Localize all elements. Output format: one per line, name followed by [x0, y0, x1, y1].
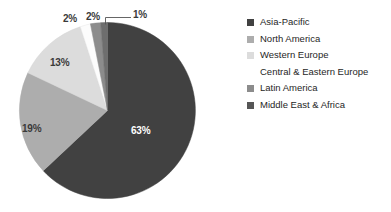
slice-label-north-america: 19%	[22, 124, 41, 134]
legend-swatch-icon	[247, 102, 254, 109]
legend-swatch-icon	[247, 36, 254, 43]
slice-label-middle-east-africa: 1%	[133, 10, 147, 20]
legend-swatch-icon	[247, 85, 254, 92]
slice-label-western-europe: 13%	[50, 58, 69, 68]
legend-label: Asia-Pacific	[260, 14, 310, 31]
slice-label-asia-pacific: 63%	[131, 126, 150, 136]
slice-label-central-eastern-europe: 2%	[63, 14, 77, 24]
legend-label: Middle East & Africa	[260, 97, 345, 114]
legend-item-asia-pacific[interactable]: Asia-Pacific	[247, 14, 391, 31]
legend-label: Central & Eastern Europe	[260, 64, 368, 81]
legend-swatch-icon	[247, 52, 254, 59]
legend-item-north-america[interactable]: North America	[247, 31, 391, 48]
legend-label: Western Europe	[260, 47, 328, 64]
legend-label: North America	[260, 31, 320, 48]
legend-item-middle-east-africa[interactable]: Middle East & Africa	[247, 97, 391, 114]
pie-chart-figure: 63% 19% 13% 2% 2% 1% Asia-Pacific North …	[0, 0, 391, 212]
chart-legend: Asia-Pacific North America Western Europ…	[247, 14, 391, 113]
legend-item-western-europe[interactable]: Western Europe	[247, 47, 391, 64]
pie-chart-svg	[0, 0, 240, 212]
legend-swatch-icon	[247, 19, 254, 26]
slice-label-latin-america: 2%	[86, 12, 100, 22]
legend-label: Latin America	[260, 80, 318, 97]
legend-item-central-eastern-europe[interactable]: Central & Eastern Europe	[247, 64, 391, 81]
legend-swatch-icon	[247, 69, 254, 76]
legend-item-latin-america[interactable]: Latin America	[247, 80, 391, 97]
pie-chart-plot-area: 63% 19% 13% 2% 2% 1%	[0, 0, 240, 212]
